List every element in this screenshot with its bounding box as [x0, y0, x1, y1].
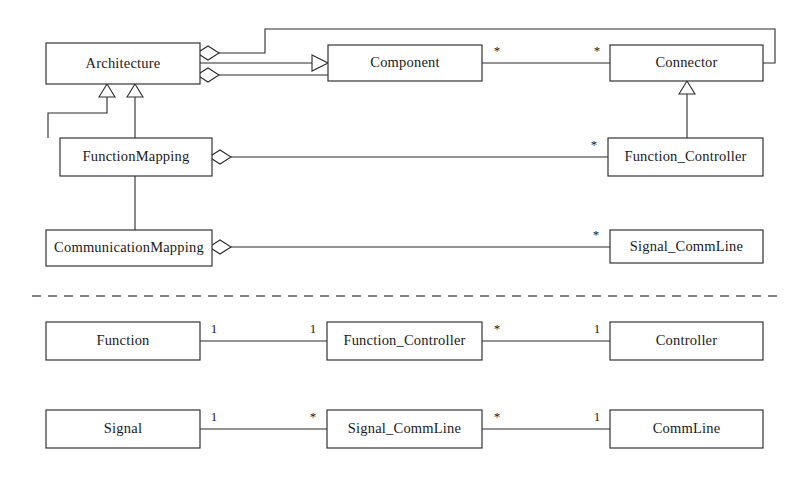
class-name-label: Controller: [656, 332, 718, 348]
generalization-triangle-icon: [312, 55, 328, 71]
multiplicity-label: *: [494, 43, 501, 58]
class-box-commline[interactable]: CommLine: [610, 410, 763, 448]
multiplicity-label: *: [494, 321, 501, 336]
class-name-label: CommunicationMapping: [54, 239, 204, 255]
functionmapping-aggregation-functioncontroller[interactable]: [209, 150, 608, 164]
multiplicity-label: *: [494, 409, 501, 424]
class-box-function_controller[interactable]: Function_Controller: [608, 138, 763, 176]
class-box-signal_commline_low[interactable]: Signal_CommLine: [327, 410, 482, 448]
class-box-controller[interactable]: Controller: [610, 322, 763, 360]
class-box-comm_mapping[interactable]: CommunicationMapping: [46, 230, 212, 266]
class-box-function[interactable]: Function: [46, 322, 200, 360]
class-name-label: Component: [370, 54, 439, 70]
uml-class-diagram: ArchitectureComponentConnectorFunctionMa…: [0, 0, 810, 482]
class-box-function_ctrl_low[interactable]: Function_Controller: [327, 322, 482, 360]
classes-layer: ArchitectureComponentConnectorFunctionMa…: [46, 43, 763, 448]
generalization-triangle-icon: [679, 81, 695, 94]
class-name-label: Function: [96, 332, 150, 348]
class-box-signal_commline_up[interactable]: Signal_CommLine: [610, 230, 763, 263]
multiplicity-label: 1: [310, 321, 317, 336]
architecture-aggregation-component[interactable]: [197, 68, 328, 82]
multiplicity-label: 1: [211, 321, 218, 336]
multiplicity-label: 1: [594, 409, 601, 424]
class-name-label: Architecture: [86, 55, 161, 71]
multiplicity-label: *: [310, 409, 317, 424]
class-name-label: Signal_CommLine: [348, 420, 461, 436]
multiplicity-labels-layer: ****11*11**1: [211, 43, 601, 424]
class-box-component[interactable]: Component: [328, 45, 482, 81]
architecture-generalization-component[interactable]: [200, 55, 328, 71]
class-box-signal[interactable]: Signal: [46, 410, 200, 448]
functionmapping-generalization-architecture-line[interactable]: [48, 97, 107, 138]
multiplicity-label: *: [594, 43, 601, 58]
generalization-triangle-icon: [127, 84, 143, 97]
class-box-connector[interactable]: Connector: [610, 45, 763, 81]
class-box-architecture[interactable]: Architecture: [46, 43, 200, 84]
class-box-function_mapping[interactable]: FunctionMapping: [60, 138, 212, 176]
class-name-label: Function_Controller: [624, 148, 746, 164]
functioncontroller-generalization-connector[interactable]: [679, 81, 695, 138]
class-name-label: Connector: [655, 54, 717, 70]
class-name-label: Signal: [104, 420, 142, 436]
multiplicity-label: *: [591, 137, 598, 152]
multiplicity-label: 1: [594, 321, 601, 336]
multiplicity-label: 1: [211, 409, 218, 424]
class-name-label: Signal_CommLine: [630, 238, 743, 254]
multiplicity-label: *: [593, 227, 600, 242]
class-name-label: Function_Controller: [343, 332, 465, 348]
diagram-canvas: ArchitectureComponentConnectorFunctionMa…: [0, 0, 810, 482]
functionmapping-generalization-architecture[interactable]: [48, 84, 115, 138]
communicationmapping-aggregation-signalcommline[interactable]: [209, 240, 610, 254]
class-name-label: CommLine: [653, 420, 721, 436]
relationships-layer: [48, 29, 775, 429]
generalization-triangle-icon: [99, 84, 115, 97]
class-name-label: FunctionMapping: [83, 148, 190, 164]
